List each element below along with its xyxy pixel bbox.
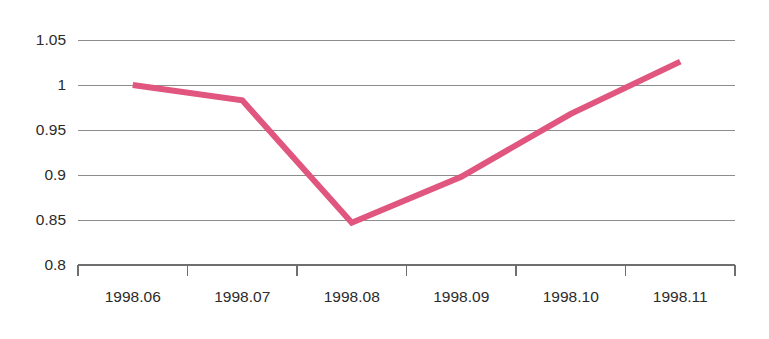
x-axis-tick-label: 1998.07 [214,288,270,305]
x-axis-tick-label: 1998.09 [433,288,489,305]
x-axis-tick-label: 1998.11 [653,288,708,305]
y-axis-tick-label: 0.9 [44,166,66,183]
x-axis-tick-label: 1998.06 [105,288,161,305]
chart-canvas: 0.80.850.90.9511.05 1998.061998.071998.0… [0,0,769,339]
y-axis-tick-label: 0.95 [36,121,66,138]
x-axis-tick-label: 1998.08 [324,288,380,305]
y-axis-tick-label: 1.05 [36,31,66,48]
y-axis-tick-label: 1 [57,76,66,93]
y-axis-tick-label: 0.85 [36,211,66,228]
y-axis-tick-label: 0.8 [44,256,66,273]
x-axis-tick-label: 1998.10 [543,288,599,305]
line-chart: 0.80.850.90.9511.05 1998.061998.071998.0… [0,0,769,339]
